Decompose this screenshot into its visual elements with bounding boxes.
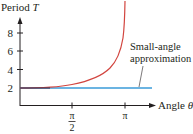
x-tick-label-pi-half-numerator: π: [69, 110, 74, 121]
y-axis-title: Period T: [1, 1, 39, 13]
y-tick-label-8: 8: [8, 27, 14, 39]
y-tick-label-6: 6: [8, 45, 14, 57]
exact-period-curve: [20, 1, 125, 88]
annotation-line1: Small-angle: [130, 41, 181, 52]
annotation-leader-line: [139, 66, 143, 87]
y-axis-arrow-icon: [18, 17, 23, 24]
pendulum-period-chart: 8 6 4 2 Period T π 2 π Angle θ Small-ang…: [0, 0, 193, 134]
x-axis-arrow-icon: [149, 103, 156, 108]
y-tick-label-2: 2: [8, 82, 14, 94]
annotation-line2: approximation: [130, 53, 192, 64]
y-tick-label-4: 4: [8, 64, 14, 76]
x-tick-label-pi: π: [122, 110, 127, 121]
x-axis-title: Angle θ: [158, 99, 193, 111]
x-tick-label-pi-half-denominator: 2: [70, 122, 75, 133]
